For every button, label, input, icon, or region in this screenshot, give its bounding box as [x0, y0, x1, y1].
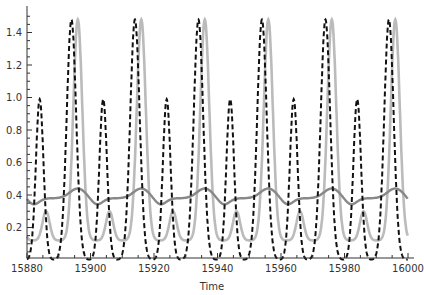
- series-medium-gray-line: [27, 189, 408, 205]
- y-tick-label: 1.2: [6, 60, 22, 71]
- x-tick-label: 15900: [75, 263, 107, 274]
- x-tick-label: 15980: [329, 263, 361, 274]
- x-tick-label: 16000: [392, 263, 424, 274]
- x-tick-label: 15920: [138, 263, 170, 274]
- y-tick-label: 0.8: [6, 125, 22, 136]
- x-tick-label: 15940: [202, 263, 234, 274]
- x-axis-label: Time: [199, 281, 224, 292]
- y-tick-label: 0.2: [6, 222, 22, 233]
- y-tick-label: 0.4: [6, 190, 22, 201]
- chart: 15880159001592015940159601598016000 0.20…: [0, 0, 424, 295]
- y-ticks: 0.20.40.60.81.01.21.4: [6, 16, 32, 252]
- plot-area: [27, 20, 408, 260]
- y-tick-label: 1.4: [6, 27, 22, 38]
- y-tick-label: 1.0: [6, 92, 22, 103]
- x-tick-label: 15960: [265, 263, 297, 274]
- x-ticks: 15880159001592015940159601598016000: [11, 253, 424, 274]
- x-tick-label: 15880: [11, 263, 43, 274]
- y-tick-label: 0.6: [6, 157, 22, 168]
